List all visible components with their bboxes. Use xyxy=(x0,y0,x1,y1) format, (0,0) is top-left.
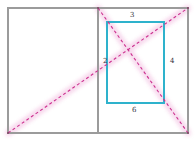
dimension-label-left: 2 xyxy=(103,58,107,65)
figure-canvas xyxy=(0,0,196,144)
dimension-label-right: 4 xyxy=(170,58,174,65)
dimension-label-top: 3 xyxy=(130,12,134,19)
geometry-figure: 3 2 4 6 xyxy=(0,0,196,144)
dimension-label-bottom: 6 xyxy=(132,107,136,114)
